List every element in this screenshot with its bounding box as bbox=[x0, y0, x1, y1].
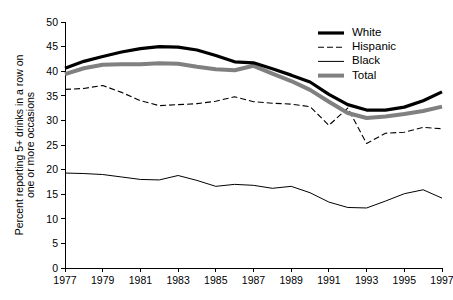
x-tick-label: 1987 bbox=[242, 274, 266, 286]
line-chart: Percent reporting 5+ drinks in a row ono… bbox=[0, 0, 453, 300]
y-tick-label: 45 bbox=[46, 40, 58, 52]
x-tick-label: 1979 bbox=[91, 274, 115, 286]
x-tick-label: 1977 bbox=[53, 274, 77, 286]
y-tick-label: 10 bbox=[46, 213, 58, 225]
y-tick-label: 20 bbox=[46, 163, 58, 175]
legend-label-hispanic: Hispanic bbox=[352, 40, 396, 52]
y-tick-label: 50 bbox=[46, 16, 58, 28]
x-tick-label: 1991 bbox=[317, 274, 341, 286]
y-tick-label: 30 bbox=[46, 114, 58, 126]
legend-label-white: White bbox=[352, 26, 381, 38]
y-tick-label: 0 bbox=[52, 262, 58, 274]
y-tick-label: 15 bbox=[46, 188, 58, 200]
x-tick-label: 1995 bbox=[393, 274, 417, 286]
chart-container: Percent reporting 5+ drinks in a row ono… bbox=[0, 0, 453, 300]
y-tick-label: 5 bbox=[52, 237, 58, 249]
x-tick-label: 1989 bbox=[280, 274, 304, 286]
y-tick-label: 35 bbox=[46, 90, 58, 102]
legend-label-black: Black bbox=[352, 54, 380, 66]
y-tick-label: 25 bbox=[46, 139, 58, 151]
y-tick-label: 40 bbox=[46, 65, 58, 77]
x-tick-label: 1997 bbox=[430, 274, 453, 286]
legend-label-total: Total bbox=[352, 69, 376, 81]
x-tick-label: 1993 bbox=[355, 274, 379, 286]
x-tick-label: 1983 bbox=[166, 274, 190, 286]
y-axis-title-line-2: one or more occasions bbox=[24, 92, 36, 198]
x-tick-label: 1981 bbox=[129, 274, 153, 286]
x-tick-label: 1985 bbox=[204, 274, 228, 286]
